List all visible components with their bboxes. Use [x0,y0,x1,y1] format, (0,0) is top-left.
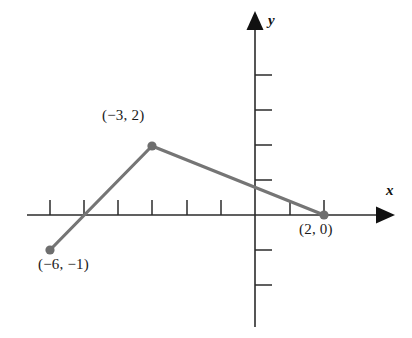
x-axis-label: x [386,182,394,199]
data-point-marker-vertex [147,141,156,150]
left-endpoint-label: (−6, −1) [38,256,89,273]
y-axis-label: y [268,12,275,29]
vertex-point-label: (−3, 2) [102,107,144,124]
data-point-marker-left [45,245,54,254]
x-axis-arrow-icon [376,207,395,224]
y-axis-arrow-icon [247,11,264,30]
y-axis-ticks [255,75,272,285]
right-endpoint-label: (2, 0) [299,221,333,238]
data-point-marker-right [319,210,328,219]
graph-canvas [0,0,412,338]
data-line-series [50,146,324,250]
coordinate-plane-figure: (−3, 2) (−6, −1) (2, 0) x y [0,0,412,338]
